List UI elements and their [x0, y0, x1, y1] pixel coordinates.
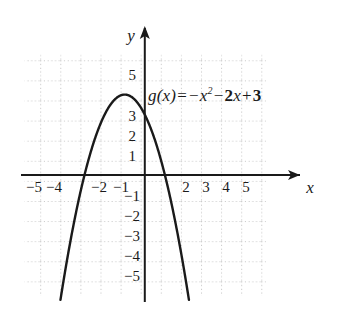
- y-tick--1: −1: [124, 188, 140, 204]
- equation-annotation: g(x)=−x2−2x+3: [148, 86, 261, 106]
- y-tick-5: 5: [129, 67, 137, 83]
- equation-term1-base: x: [200, 86, 208, 105]
- x-tick--2: −2: [91, 179, 107, 195]
- x-tick--5: −5: [26, 179, 42, 195]
- x-tick-4: 4: [222, 179, 230, 195]
- graph-figure: x y −5 −4 −2 −1 2 3 4 5 5 3 2 1 −1 −2 −3: [0, 0, 354, 312]
- x-tick-5: 5: [242, 179, 250, 195]
- y-tick--4: −4: [124, 248, 140, 264]
- y-tick-labels-negative: −1 −2 −3 −4 −5: [124, 188, 140, 284]
- y-tick-2: 2: [129, 128, 137, 144]
- y-tick-3: 3: [129, 108, 137, 124]
- equation-term1-exponent: 2: [208, 85, 213, 96]
- equation-term2-coefficient: 2: [225, 86, 234, 105]
- equation-term2-variable: x: [233, 86, 241, 105]
- equation-function-name: g(x): [148, 86, 176, 105]
- y-tick--2: −2: [124, 208, 140, 224]
- y-axis-label: y: [125, 26, 135, 45]
- equation-term2-sign: −: [213, 86, 225, 105]
- x-tick--4: −4: [46, 179, 62, 195]
- equation-equals: =: [176, 86, 188, 105]
- coordinate-plane: x y −5 −4 −2 −1 2 3 4 5 5 3 2 1 −1 −2 −3: [0, 0, 354, 312]
- y-tick--5: −5: [124, 268, 140, 284]
- y-tick--3: −3: [124, 228, 140, 244]
- equation-term3-sign: +: [241, 86, 253, 105]
- y-tick-1: 1: [129, 148, 137, 164]
- y-tick-labels-positive: 5 3 2 1: [129, 67, 137, 164]
- x-tick-2: 2: [182, 179, 190, 195]
- equation-term1-sign: −: [188, 86, 200, 105]
- x-tick-3: 3: [202, 179, 210, 195]
- x-axis-label: x: [305, 178, 314, 197]
- equation-term3-constant: 3: [253, 86, 262, 105]
